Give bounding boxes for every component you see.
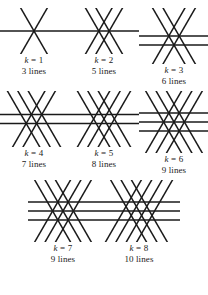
figure-cell-k2: k = 2 5 lines — [69, 8, 139, 76]
arrangement-line — [110, 166, 160, 253]
lines-label-k7: 9 lines — [51, 254, 75, 265]
arrangement-line — [30, 164, 80, 251]
line-arrangement-svg — [139, 8, 208, 64]
figure-row-3: k = 7 9 lines k = 8 10 lines — [0, 180, 208, 264]
line-arrangement-svg — [0, 8, 69, 54]
figure-cell-k6: k = 6 9 lines — [139, 91, 208, 175]
k-equals: = — [29, 55, 39, 65]
k-value: 3 — [179, 65, 184, 75]
figure-caption-k6: k = 6 9 lines — [162, 154, 186, 175]
line-arrangement-svg — [69, 8, 139, 54]
k-label-k6: k = 6 — [162, 154, 186, 165]
k-value: 7 — [68, 243, 73, 253]
lines-label-k4: 7 lines — [22, 159, 46, 170]
k-value: 5 — [109, 148, 114, 158]
figure-row-1: k = 1 3 lines k = 2 5 lines k = 3 6 line… — [0, 8, 208, 86]
k-label-k3: k = 3 — [162, 65, 186, 76]
figure-row-2: k = 4 7 lines k = 5 8 lines k = 6 9 line… — [0, 91, 208, 175]
k-equals: = — [29, 148, 39, 158]
lines-label-k1: 3 lines — [22, 66, 46, 77]
k-equals: = — [169, 65, 179, 75]
line-arrangement-svg — [28, 180, 98, 242]
line-arrangement-svg — [139, 91, 208, 153]
arrangement-line — [157, 74, 207, 161]
k-label-k2: k = 2 — [92, 55, 116, 66]
k-value: 8 — [144, 243, 149, 253]
lines-label-k5: 8 lines — [92, 159, 116, 170]
figure-caption-k7: k = 7 9 lines — [51, 243, 75, 264]
lines-label-k2: 5 lines — [92, 66, 116, 77]
k-equals: = — [99, 55, 109, 65]
k-value: 4 — [39, 148, 44, 158]
k-value: 1 — [39, 55, 44, 65]
k-equals: = — [58, 243, 68, 253]
k-label-k8: k = 8 — [124, 243, 153, 254]
figure-caption-k4: k = 4 7 lines — [22, 148, 46, 169]
k-value: 2 — [109, 55, 114, 65]
figure-cell-k8: k = 8 10 lines — [98, 180, 180, 264]
line-arrangement-art-k5 — [69, 91, 139, 147]
figure-caption-k8: k = 8 10 lines — [124, 243, 153, 264]
k-equals: = — [99, 148, 109, 158]
line-arrangement-art-k8 — [98, 180, 180, 242]
figure-cell-k3: k = 3 6 lines — [139, 8, 208, 86]
k-label-k4: k = 4 — [22, 148, 46, 159]
lines-label-k8: 10 lines — [124, 254, 153, 265]
arrangement-line — [141, 74, 191, 161]
line-arrangement-art-k6 — [139, 91, 208, 153]
figure-cell-k4: k = 4 7 lines — [0, 91, 69, 169]
k-label-k5: k = 5 — [92, 148, 116, 159]
k-label-k7: k = 7 — [51, 243, 75, 254]
lines-label-k6: 9 lines — [162, 165, 186, 176]
k-value: 6 — [179, 154, 184, 164]
figure-caption-k5: k = 5 8 lines — [92, 148, 116, 169]
line-arrangements-figure: k = 1 3 lines k = 2 5 lines k = 3 6 line… — [0, 8, 208, 295]
k-equals: = — [134, 243, 144, 253]
line-arrangement-art-k7 — [28, 180, 98, 242]
line-arrangement-svg — [0, 91, 69, 147]
arrangement-line — [46, 164, 96, 251]
line-arrangement-svg — [69, 91, 139, 147]
figure-cell-k7: k = 7 9 lines — [28, 180, 98, 264]
figure-caption-k3: k = 3 6 lines — [162, 65, 186, 86]
figure-caption-k1: k = 1 3 lines — [22, 55, 46, 76]
figure-cell-k5: k = 5 8 lines — [69, 91, 139, 169]
line-arrangement-art-k3 — [139, 8, 208, 64]
figure-cell-k1: k = 1 3 lines — [0, 8, 69, 76]
line-arrangement-svg — [98, 180, 180, 242]
line-arrangement-art-k4 — [0, 91, 69, 147]
figure-caption-k2: k = 2 5 lines — [92, 55, 116, 76]
line-arrangement-art-k1 — [0, 8, 69, 54]
line-arrangement-art-k2 — [69, 8, 139, 54]
lines-label-k3: 6 lines — [162, 76, 186, 87]
k-label-k1: k = 1 — [22, 55, 46, 66]
k-equals: = — [169, 154, 179, 164]
